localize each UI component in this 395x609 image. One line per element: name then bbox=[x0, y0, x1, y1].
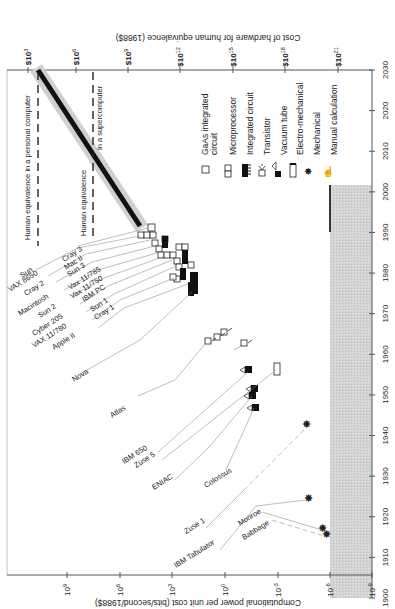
cost-tick-label: $1015 bbox=[228, 47, 238, 66]
year-tick-label: 1990 bbox=[381, 223, 390, 241]
label-zuse1: Zuse 1 bbox=[182, 516, 206, 536]
cost-tick-label: $1018 bbox=[280, 47, 290, 66]
year-tick-label: 2020 bbox=[381, 101, 390, 119]
year-tick-label: 1950 bbox=[381, 385, 390, 403]
bottom-axis-title: Computational power per unit cost (bits/… bbox=[95, 598, 301, 608]
svg-text:✸: ✸ bbox=[304, 492, 313, 504]
legend-star-icon: ✸ bbox=[304, 166, 312, 177]
year-tick-label: 1930 bbox=[381, 467, 390, 485]
machine-labels: Cray 3 Mac II Sun 3 Vax 11/785 Vax 11/75… bbox=[6, 244, 270, 569]
svg-text:✸: ✸ bbox=[322, 528, 331, 540]
label-nova: Nova bbox=[70, 366, 90, 383]
cost-tick-label: $103 bbox=[23, 49, 33, 65]
power-tick-label: 100 bbox=[220, 584, 230, 596]
mechanical-points: ✸ ✸ ✸ ✸ bbox=[302, 418, 331, 540]
cost-tick-label: $1012 bbox=[175, 47, 185, 66]
year-tick-label: 1960 bbox=[381, 345, 390, 363]
power-tick-label: 109 bbox=[62, 584, 72, 596]
legend-hand-icon: ☝ bbox=[322, 165, 334, 178]
year-tick-label: 2010 bbox=[381, 142, 390, 160]
chart: 1900191019201930194019501960197019801990… bbox=[0, 0, 395, 609]
cost-tick-label: $109 bbox=[123, 49, 133, 65]
trend-line bbox=[38, 70, 140, 226]
year-tick-label: 1910 bbox=[381, 548, 390, 566]
transistor-points bbox=[205, 328, 252, 346]
legend-label-vacuum: Vacuum tube bbox=[279, 105, 289, 155]
legend-vacuum-tube-icon bbox=[272, 162, 281, 177]
label-ibmtab: IBM Tabulator bbox=[172, 537, 216, 569]
cost-ticks: $103$106$109$1012$1015$1018$1021 bbox=[23, 47, 343, 73]
super-equivalence-label-b: in a supercomputer bbox=[95, 85, 104, 150]
legend-gaas-icon bbox=[202, 166, 209, 173]
legend-ic-icon bbox=[242, 164, 251, 177]
legend-label-ic: Integrated circuit bbox=[245, 92, 255, 155]
power-tick-label: 106 bbox=[115, 584, 125, 596]
legend-label-transistor: Transistor bbox=[262, 117, 272, 155]
top-axis-title: Cost of hardware for human equivalence (… bbox=[115, 33, 300, 43]
super-equivalence-label-a: Human equivalence bbox=[79, 170, 88, 236]
legend: ✸ ☝ GaAs integrated circuit Microprocess… bbox=[200, 83, 339, 178]
legend-label-mechanical: Mechanical bbox=[312, 112, 322, 155]
legend-relay-icon bbox=[290, 164, 296, 177]
year-tick-label: 1980 bbox=[381, 264, 390, 282]
svg-text:✸: ✸ bbox=[302, 418, 311, 430]
manual-calculation-region bbox=[330, 185, 372, 598]
vacuum-points bbox=[240, 363, 280, 411]
pc-equivalence-label: Human equivalence in a personal computer bbox=[23, 95, 32, 240]
legend-label-gaas-2: circuit bbox=[209, 132, 219, 155]
transistor-leader bbox=[234, 346, 241, 350]
label-eniac: ENIAC bbox=[150, 472, 175, 492]
power-tick-label: 10-9 bbox=[367, 583, 377, 597]
legend-label-manual: Manual calculation bbox=[329, 84, 339, 155]
label-colossus: Colossus bbox=[202, 466, 233, 490]
cost-tick-label: $1021 bbox=[333, 47, 343, 66]
year-tick-label: 1920 bbox=[381, 507, 390, 525]
cost-tick-label: $106 bbox=[71, 49, 81, 65]
legend-transistor-icon bbox=[259, 164, 265, 176]
year-tick-label: 1970 bbox=[381, 304, 390, 322]
label-atlas: Atlas bbox=[108, 403, 127, 420]
year-tick-label: 1940 bbox=[381, 426, 390, 444]
legend-label-microprocessor: Microprocessor bbox=[228, 97, 238, 155]
power-tick-label: 103 bbox=[167, 584, 177, 596]
legend-label-electromech: Electro-mechanical bbox=[295, 83, 305, 155]
year-tick-label: 2030 bbox=[381, 61, 390, 79]
year-tick-label: 2000 bbox=[381, 182, 390, 200]
power-ticks: 10910610310010-310-610-9 bbox=[62, 572, 377, 597]
year-tick-label: 1900 bbox=[381, 589, 390, 607]
power-tick-label: 10-3 bbox=[273, 583, 283, 597]
legend-microprocessor-icon bbox=[225, 165, 231, 177]
